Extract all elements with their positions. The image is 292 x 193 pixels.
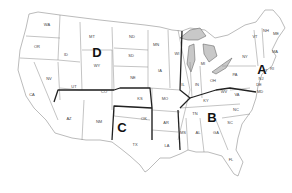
state-label: NM bbox=[96, 119, 102, 124]
state-label: WV bbox=[221, 89, 228, 94]
state-label: NY bbox=[242, 54, 248, 59]
state-label: VA bbox=[234, 92, 239, 97]
us-regions-map: WA OR ID MT WY ND SD NE NV UT CO CA AZ N… bbox=[0, 0, 292, 193]
state-label: CO bbox=[101, 89, 107, 94]
state-label: OR bbox=[34, 44, 40, 49]
state-label: IN bbox=[195, 82, 199, 87]
state-label: WI bbox=[175, 51, 180, 56]
region-label-c: C bbox=[117, 120, 127, 135]
state-label: DE bbox=[256, 82, 262, 87]
state-label: WY bbox=[94, 63, 101, 68]
state-label: ID bbox=[64, 52, 68, 57]
region-label-b: B bbox=[207, 110, 216, 125]
state-label: MD bbox=[257, 89, 263, 94]
state-label: MI bbox=[201, 61, 205, 66]
state-label: AZ bbox=[66, 116, 72, 121]
state-label: TN bbox=[192, 111, 197, 116]
state-label: WA bbox=[44, 22, 51, 27]
region-label-d: D bbox=[92, 45, 101, 60]
state-label: AL bbox=[196, 130, 202, 135]
state-label: AR bbox=[163, 120, 169, 125]
state-label: TX bbox=[132, 142, 137, 147]
state-label: GA bbox=[213, 130, 219, 135]
state-label: MO bbox=[162, 96, 168, 101]
state-label: VT bbox=[252, 34, 258, 39]
state-label: NV bbox=[46, 76, 52, 81]
state-label: RI bbox=[270, 66, 274, 71]
state-label: NH bbox=[263, 28, 269, 33]
state-label: SC bbox=[227, 120, 233, 125]
state-label: ND bbox=[129, 34, 135, 39]
state-label: NE bbox=[130, 75, 136, 80]
state-label: CA bbox=[29, 92, 35, 97]
us-outline bbox=[18, 10, 285, 176]
state-label: UT bbox=[71, 84, 77, 89]
state-label: KS bbox=[137, 96, 143, 101]
state-label: OH bbox=[210, 78, 216, 83]
state-label: MN bbox=[153, 42, 159, 47]
state-label: PA bbox=[232, 72, 237, 77]
state-label: MS bbox=[180, 130, 186, 135]
state-label: MA bbox=[272, 49, 278, 54]
state-label: OK bbox=[141, 116, 147, 121]
state-label: IA bbox=[158, 68, 162, 73]
state-label: MT bbox=[89, 34, 95, 39]
state-label: LA bbox=[165, 143, 170, 148]
state-label: ME bbox=[273, 31, 279, 36]
region-label-a: A bbox=[257, 62, 267, 77]
state-label: SD bbox=[128, 53, 134, 58]
state-label: FL bbox=[229, 157, 234, 162]
state-label: KY bbox=[203, 98, 209, 103]
state-label: NC bbox=[233, 107, 239, 112]
